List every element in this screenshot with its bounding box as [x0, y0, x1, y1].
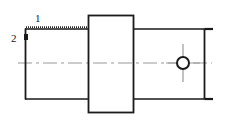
callout-2-marker — [24, 34, 28, 40]
center-flange-block — [89, 16, 134, 113]
callout-label-2: 2 — [11, 33, 17, 44]
through-hole-circle — [177, 57, 189, 69]
center-flange-group — [89, 16, 134, 113]
through-hole-group — [166, 44, 200, 82]
callout-label-1: 1 — [35, 13, 41, 24]
callout-markers-group — [24, 34, 28, 40]
technical-drawing-canvas: 1 2 — [0, 0, 228, 123]
right-cylinder-group — [133, 29, 213, 100]
